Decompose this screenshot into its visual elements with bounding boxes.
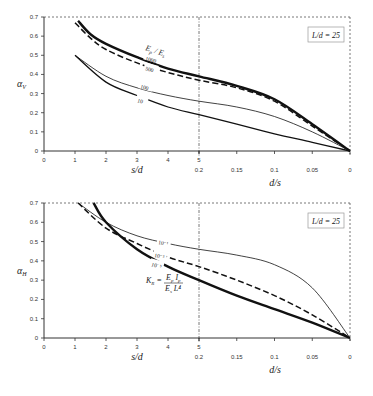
x-tick-label-right: 0 [348, 167, 352, 173]
x-tick-label-right: 0.2 [195, 167, 204, 173]
x-tick-label-right: 0.2 [195, 354, 204, 360]
curve-label-1e-1: 10⁻¹ [158, 239, 169, 247]
y-tick-label: 0.6 [30, 33, 39, 39]
y-tick-label: 0.7 [30, 14, 39, 20]
x-axis-title-left: s/d [131, 351, 144, 362]
y-tick-label: 0.5 [30, 52, 39, 58]
y-tick-label: 0.7 [30, 200, 39, 206]
x-tick-label: 0 [42, 157, 46, 163]
x-tick-label: 0 [42, 344, 46, 350]
x-tick-label-right: 0.05 [306, 354, 318, 360]
y-axis-title: αH [17, 265, 27, 277]
y-tick-label: 0.1 [30, 129, 39, 135]
y-tick-label: 0 [35, 148, 39, 154]
curve-100 [75, 55, 350, 151]
y-tick-label: 0.4 [30, 258, 39, 264]
curve-label-1e-3: 10⁻³ [154, 252, 166, 260]
x-tick-label-right: 0.15 [231, 167, 243, 173]
y-tick-label: 0.3 [30, 277, 39, 283]
x-tick-label: 2 [104, 344, 108, 350]
x-tick-label-right: 0.1 [270, 167, 279, 173]
figure: 00.10.20.30.40.50.60.70123450.20.150.10.… [0, 0, 373, 396]
y-tick-label: 0.2 [30, 110, 39, 116]
y-tick-label: 0.3 [30, 91, 39, 97]
x-tick-label: 4 [166, 157, 170, 163]
x-tick-label-right: 0.05 [306, 167, 318, 173]
curve-label-1e-5: 10⁻⁵ [151, 261, 163, 270]
x-tick-label: 1 [73, 344, 77, 350]
x-axis-title-left: s/d [131, 164, 144, 175]
legend-text: L/d = 25 [311, 31, 340, 40]
y-tick-label: 0.5 [30, 239, 39, 245]
y-tick-label: 0.6 [30, 219, 39, 225]
x-tick-label-right: 0.15 [231, 354, 243, 360]
y-tick-label: 0 [35, 335, 39, 341]
top-chart: 00.10.20.30.40.50.60.70123450.20.150.10.… [17, 14, 352, 188]
x-tick-label-right: 0 [348, 354, 352, 360]
kr-formula-numerator: Ep Ip [165, 273, 181, 283]
y-tick-label: 0.1 [30, 316, 39, 322]
x-axis-title-right: d/s [269, 364, 281, 375]
x-axis-title-right: d/s [269, 177, 281, 188]
x-tick-label: 1 [73, 157, 77, 163]
y-axis-title: αV [17, 78, 27, 90]
x-tick-label-right: 0.1 [270, 354, 279, 360]
kr-formula-lhs: KR = [145, 276, 162, 286]
x-tick-label: 5 [197, 344, 201, 350]
legend-text: L/d = 25 [311, 217, 340, 226]
x-tick-label: 3 [135, 344, 139, 350]
x-tick-label: 2 [104, 157, 108, 163]
y-tick-label: 0.2 [30, 296, 39, 302]
bottom-chart: 00.10.20.30.40.50.60.70123450.20.150.10.… [17, 200, 352, 375]
x-tick-label: 3 [135, 157, 139, 163]
y-tick-label: 0.4 [30, 71, 39, 77]
x-tick-label: 4 [166, 344, 170, 350]
kr-formula-denominator: Es L⁴ [164, 284, 181, 294]
x-tick-label: 5 [197, 157, 201, 163]
